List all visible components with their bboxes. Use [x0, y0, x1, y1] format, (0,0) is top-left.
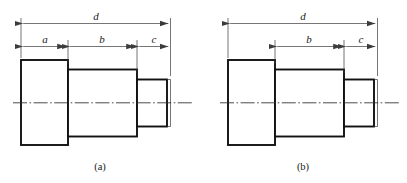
panel-b-caption: (b) — [297, 161, 310, 173]
panel-b-dim-label-middle: b — [306, 33, 312, 45]
panel-a-dim-label-middle: b — [99, 33, 105, 45]
panel-b-group: d b c (b) — [220, 10, 399, 173]
panel-b-dim-label-last: c — [359, 33, 364, 45]
technical-drawing-figure: d a b c (a) — [0, 0, 407, 183]
panel-a-group: d a b c (a) — [13, 10, 192, 173]
panel-b-dim-label-overall: d — [300, 10, 306, 22]
panel-a-dim-label-first: a — [42, 33, 48, 45]
panel-a-dim-label-last: c — [152, 33, 157, 45]
drawing-canvas: d a b c (a) — [0, 0, 407, 183]
panel-a-caption: (a) — [94, 161, 106, 173]
panel-a-dim-label-overall: d — [93, 10, 99, 22]
